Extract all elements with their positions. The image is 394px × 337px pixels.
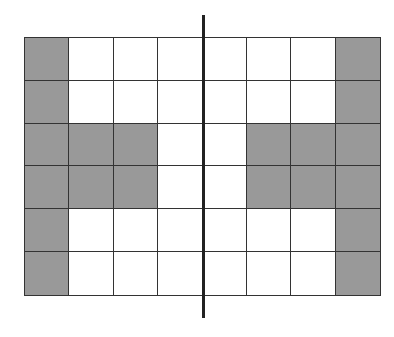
grid-cell bbox=[158, 124, 202, 167]
grid-cell bbox=[291, 252, 335, 295]
grid-cell bbox=[247, 124, 291, 167]
grid-cell bbox=[25, 124, 69, 167]
grid-cell bbox=[336, 209, 380, 252]
grid-cell bbox=[247, 209, 291, 252]
grid-cell bbox=[114, 252, 158, 295]
grid-cell bbox=[203, 209, 247, 252]
grid-cell bbox=[69, 209, 113, 252]
grid-cell bbox=[25, 81, 69, 124]
grid-cell bbox=[114, 38, 158, 81]
grid-cell bbox=[247, 252, 291, 295]
grid-cell bbox=[25, 38, 69, 81]
grid-cell bbox=[69, 252, 113, 295]
grid-cell bbox=[114, 81, 158, 124]
grid-cell bbox=[291, 166, 335, 209]
grid-cell bbox=[69, 81, 113, 124]
grid-cell bbox=[25, 209, 69, 252]
line-of-symmetry bbox=[202, 15, 205, 318]
grid-cell bbox=[203, 38, 247, 81]
grid-cell bbox=[158, 209, 202, 252]
grid-cell bbox=[291, 124, 335, 167]
grid-cell bbox=[203, 252, 247, 295]
grid-cell bbox=[25, 166, 69, 209]
grid-cell bbox=[291, 209, 335, 252]
grid-cell bbox=[336, 252, 380, 295]
grid-cell bbox=[336, 38, 380, 81]
grid-cell bbox=[247, 166, 291, 209]
grid-cell bbox=[114, 209, 158, 252]
grid-cell bbox=[158, 38, 202, 81]
grid-cell bbox=[25, 252, 69, 295]
grid-cell bbox=[69, 124, 113, 167]
grid-cell bbox=[336, 124, 380, 167]
grid-cell bbox=[158, 81, 202, 124]
grid-cell bbox=[336, 166, 380, 209]
grid-cell bbox=[158, 252, 202, 295]
grid-cell bbox=[114, 124, 158, 167]
grid-cell bbox=[69, 166, 113, 209]
grid-cell bbox=[291, 38, 335, 81]
grid-cell bbox=[114, 166, 158, 209]
grid-cell bbox=[247, 81, 291, 124]
grid-cell bbox=[203, 81, 247, 124]
grid-cell bbox=[247, 38, 291, 81]
grid-cell bbox=[69, 38, 113, 81]
grid-cell bbox=[158, 166, 202, 209]
grid-cell bbox=[203, 124, 247, 167]
grid-cell bbox=[203, 166, 247, 209]
grid-cell bbox=[291, 81, 335, 124]
grid-cell bbox=[336, 81, 380, 124]
